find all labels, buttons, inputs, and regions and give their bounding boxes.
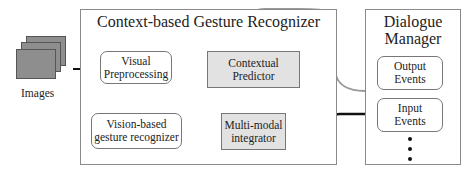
- images-label: Images: [21, 87, 54, 99]
- output-events-node: Output Events: [377, 56, 443, 90]
- node-label-line: Contextual: [228, 57, 278, 70]
- node-label-line: Input: [398, 102, 422, 115]
- node-label-line: integrator: [231, 132, 276, 145]
- ellipsis-dot: [408, 157, 412, 161]
- recognizer-panel-title: Context-based Gesture Recognizer: [80, 13, 337, 30]
- title-line: Dialogue: [365, 13, 461, 30]
- node-label-line: Multi-modal: [224, 119, 282, 132]
- node-label-line: Output: [394, 60, 426, 73]
- node-label-line: Vision-based: [107, 118, 167, 131]
- input-events-node: Input Events: [377, 98, 443, 132]
- multimodal-integrator-node: Multi-modal integrator: [221, 113, 286, 150]
- node-label-line: Preprocessing: [104, 68, 169, 81]
- images-input: [16, 36, 66, 86]
- image-frame-icon: [16, 49, 56, 79]
- node-label-line: Predictor: [232, 70, 274, 83]
- node-label-line: Events: [394, 115, 425, 128]
- ellipsis-dot: [408, 147, 412, 151]
- dialogue-manager-title: Dialogue Manager: [365, 13, 461, 47]
- title-line: Manager: [365, 30, 461, 47]
- node-label-line: Visual: [121, 55, 150, 68]
- contextual-predictor-node: Contextual Predictor: [207, 51, 300, 88]
- visual-preprocessing-node: Visual Preprocessing: [100, 51, 172, 84]
- ellipsis-dot: [408, 137, 412, 141]
- node-label-line: Events: [394, 73, 425, 86]
- vision-gesture-recognizer-node: Vision-based gesture recognizer: [91, 113, 182, 149]
- node-label-line: gesture recognizer: [94, 131, 179, 144]
